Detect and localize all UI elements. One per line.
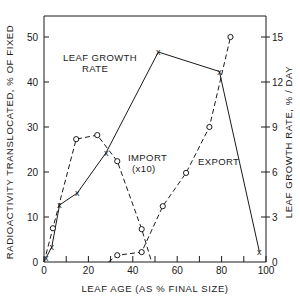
circle-marker-icon: [139, 227, 144, 232]
circle-marker-icon: [228, 34, 233, 39]
series-group: xxxxxxxx: [44, 34, 262, 262]
export-annotation: EXPORT: [198, 156, 239, 167]
import-annotation-line2: (x10): [132, 163, 156, 174]
circle-marker-icon: [115, 159, 120, 164]
import-annotation-line1: IMPORT: [128, 152, 167, 163]
y-right-tick-label: 12: [272, 77, 284, 88]
circle-marker-icon: [207, 124, 212, 129]
x-marker-icon: x: [257, 247, 262, 257]
x-axis-ticks: 020406080100: [41, 256, 275, 276]
x-tick-label: 40: [127, 265, 139, 276]
circle-marker-icon: [115, 253, 120, 258]
x-tick-label: 80: [216, 265, 228, 276]
export-line: [108, 37, 230, 262]
x-marker-icon: x: [156, 47, 161, 57]
chart: 020406080100 01020304050 03691215 xxxxxx…: [0, 0, 300, 300]
x-marker-icon: x: [57, 200, 62, 210]
circle-marker-icon: [50, 226, 55, 231]
x-axis-title: LEAF AGE (AS % FINAL SIZE): [81, 283, 228, 294]
y-left-axis-ticks: 01020304050: [27, 32, 49, 268]
circle-marker-icon: [183, 170, 188, 175]
circle-marker-icon: [160, 204, 165, 209]
y-left-tick-label: 20: [27, 167, 39, 178]
y-left-tick-label: 0: [32, 257, 38, 268]
x-tick-label: 60: [172, 265, 184, 276]
x-marker-icon: x: [104, 148, 109, 158]
x-tick-label: 20: [83, 265, 95, 276]
x-marker-icon: x: [50, 242, 55, 252]
circle-marker-icon: [139, 250, 144, 255]
y-right-tick-label: 3: [272, 212, 278, 223]
x-marker-icon: x: [217, 67, 222, 77]
y-right-tick-label: 9: [272, 122, 278, 133]
growth-rate-annotation-line1: LEAF GROWTH: [63, 52, 137, 63]
y-left-tick-label: 50: [27, 32, 39, 43]
y-left-tick-label: 40: [27, 77, 39, 88]
y-left-axis-title: RADIOACTIVITY TRANSLOCATED, % OF FIXED: [4, 25, 15, 259]
y-right-tick-label: 0: [272, 257, 278, 268]
y-right-axis-ticks: 03691215: [261, 32, 284, 268]
y-left-tick-label: 30: [27, 122, 39, 133]
x-tick-label: 0: [41, 265, 47, 276]
x-marker-icon: x: [75, 188, 80, 198]
y-right-tick-label: 6: [272, 167, 278, 178]
y-right-axis-title: LEAF GROWTH RATE, % / DAY: [283, 66, 294, 218]
circle-marker-icon: [95, 133, 100, 138]
y-left-tick-label: 10: [27, 212, 39, 223]
circle-marker-icon: [74, 137, 79, 142]
growth-rate-annotation-line2: RATE: [82, 63, 108, 74]
y-right-tick-label: 15: [272, 32, 284, 43]
